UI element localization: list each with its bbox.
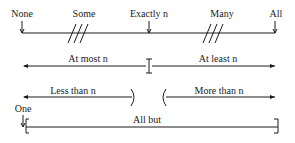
quantifier-scale-diagram: None Some Exactly n Many All At most n A… — [0, 0, 295, 143]
label-at-most-n: At most n — [68, 53, 107, 64]
label-many: Many — [210, 8, 233, 19]
left-square-bracket-icon — [26, 119, 29, 133]
right-square-bracket-icon — [274, 119, 278, 133]
label-at-least-n: At least n — [199, 53, 237, 64]
label-some: Some — [73, 8, 96, 19]
open-paren-left-icon — [163, 89, 166, 106]
label-all-but: All but — [133, 114, 161, 125]
label-exactly-n: Exactly n — [130, 8, 168, 19]
label-less-than-n: Less than n — [50, 85, 96, 96]
top-scale — [20, 21, 277, 43]
label-one: One — [15, 103, 32, 114]
label-more-than-n: More than n — [195, 85, 244, 96]
at-most-at-least-row — [24, 59, 275, 73]
closed-bracket-icon — [146, 59, 152, 73]
label-all: All — [270, 8, 283, 19]
label-none: None — [11, 8, 33, 19]
